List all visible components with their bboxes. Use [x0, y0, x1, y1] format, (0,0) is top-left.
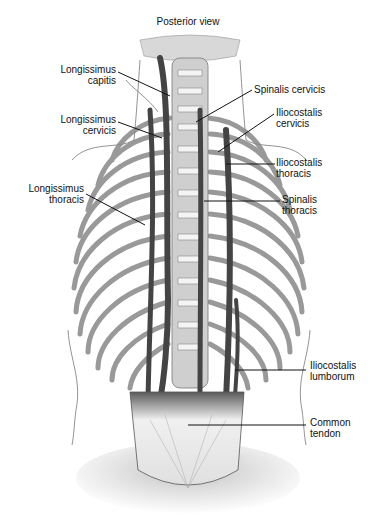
ribs-left — [74, 118, 170, 388]
label-longissimus-cervicis: Longissimus cervicis — [20, 114, 116, 136]
label-longissimus-thoracis: Longissimus thoracis — [0, 183, 84, 205]
label-longissimus-capitis: Longissimus capitis — [20, 64, 116, 86]
label-spinalis-cervicis: Spinalis cervicis — [254, 84, 325, 95]
label-common-tendon: Common tendon — [310, 417, 351, 439]
label-iliocostalis-thoracis: Iliocostalis thoracis — [276, 157, 322, 179]
skull-base — [140, 35, 240, 61]
common-tendon — [130, 392, 244, 485]
label-spinalis-thoracis: Spinalis thoracis — [282, 194, 317, 216]
label-iliocostalis-cervicis: Iliocostalis cervicis — [276, 107, 322, 129]
label-iliocostalis-lumborum: Iliocostalis lumborum — [310, 360, 356, 382]
